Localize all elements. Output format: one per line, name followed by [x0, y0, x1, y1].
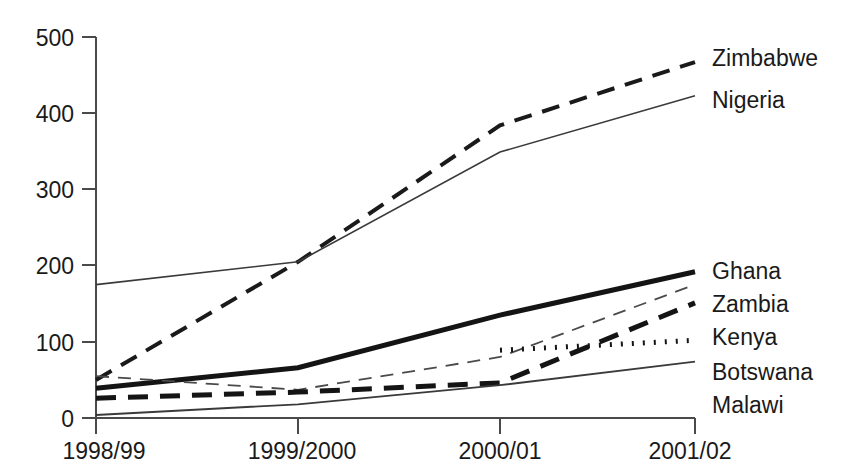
y-tick-label-0: 0	[61, 406, 74, 432]
series-label-ghana: Ghana	[712, 258, 781, 284]
series-line-botswana	[500, 340, 695, 350]
series-label-nigeria: Nigeria	[712, 87, 785, 113]
x-tick-label-1999-2000: 1999/2000	[248, 438, 357, 464]
series-label-zambia: Zambia	[712, 291, 789, 317]
series-label-zimbabwe: Zimbabwe	[712, 45, 818, 71]
series-line-ghana	[96, 272, 695, 389]
x-tick-label-1998-99: 1998/99	[62, 438, 145, 464]
y-tick-label-300: 300	[36, 177, 74, 203]
x-tick-marks	[96, 418, 695, 434]
series-line-zimbabwe	[96, 62, 695, 380]
y-tick-marks	[82, 37, 96, 418]
series-line-kenya	[96, 303, 695, 398]
y-tick-label-400: 400	[36, 101, 74, 127]
x-tick-label-2000-01: 2000/01	[458, 438, 541, 464]
y-tick-label-100: 100	[36, 330, 74, 356]
line-chart: 500 400 300 200 100 0 1998/99 1999/2000 …	[0, 0, 866, 476]
series-line-nigeria	[96, 96, 695, 285]
y-tick-label-500: 500	[36, 25, 74, 51]
series-layer	[96, 62, 695, 415]
x-tick-label-2001-02: 2001/02	[648, 438, 731, 464]
chart-canvas: 500 400 300 200 100 0 1998/99 1999/2000 …	[0, 0, 866, 476]
series-label-malawi: Malawi	[712, 392, 784, 418]
series-label-botswana: Botswana	[712, 359, 813, 385]
series-label-kenya: Kenya	[712, 324, 777, 350]
y-tick-label-200: 200	[36, 253, 74, 279]
